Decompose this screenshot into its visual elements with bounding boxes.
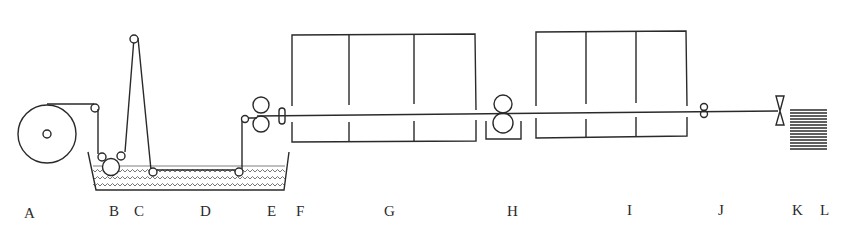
label-B: B [109,204,119,219]
sheet-stack-L [790,110,827,149]
tension-rollers-J [701,104,708,118]
process-diagram [0,0,850,231]
label-K: K [792,203,803,218]
label-I: I [627,203,632,218]
exit-guide-roller [242,116,249,123]
label-C: C [134,204,144,219]
drying-oven-G [292,34,476,142]
label-J: J [718,203,724,218]
feed-roll-A [18,105,76,163]
web-path [47,38,257,170]
bath-roller-1 [149,168,157,176]
label-H: H [507,204,518,219]
label-A: A [24,206,35,221]
loop-roller-C [130,35,138,43]
curing-oven-I [536,31,687,138]
squeeze-rolls-E [253,97,269,132]
label-L: L [820,203,829,218]
label-F: F [296,204,304,219]
bath-roller-2 [235,168,243,176]
label-E: E [267,204,276,219]
pull-rolls-H [486,95,521,139]
label-D: D [200,204,211,219]
label-G: G [384,204,395,219]
guide-rollers-B [91,104,125,176]
